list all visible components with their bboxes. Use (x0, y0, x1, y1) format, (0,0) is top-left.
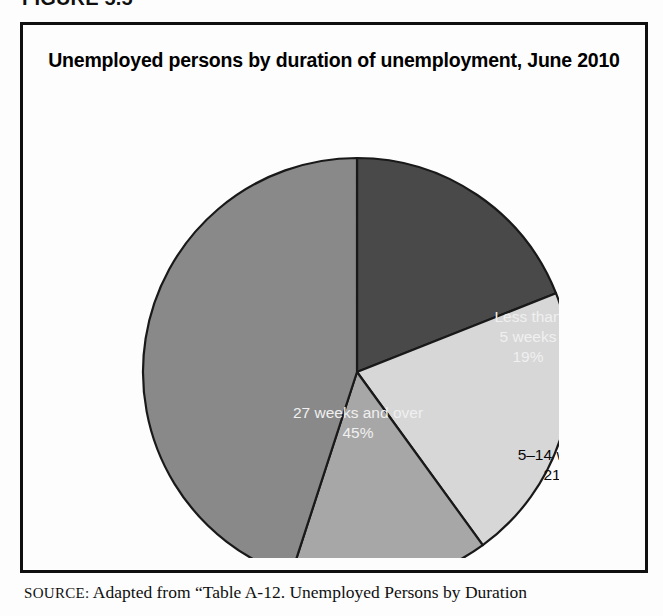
pie-chart-svg: Less than5 weeks19%5–14 weeks21%15–26 we… (123, 106, 559, 558)
chart-title: Unemployed persons by duration of unempl… (23, 49, 645, 72)
pie-slice-label-2: 5–14 weeks (518, 446, 559, 463)
pie-chart: Less than5 weeks19%5–14 weeks21%15–26 we… (123, 106, 559, 558)
source-label: SOURCE: (24, 585, 89, 601)
pie-slice-label-4: 27 weeks and over (293, 404, 423, 421)
pie-slice-label-4: 45% (342, 424, 373, 441)
source-text: Adapted from “Table A-12. Unemployed Per… (89, 582, 527, 602)
pie-slice-label-2: 21% (543, 466, 559, 483)
pie-slice-label-1: 19% (512, 348, 543, 365)
source-note: SOURCE: Adapted from “Table A-12. Unempl… (24, 582, 644, 602)
figure-number: FIGURE 5.5 (22, 0, 133, 10)
pie-slice-group (143, 158, 559, 558)
pie-slice-label-1: Less than (494, 308, 559, 325)
figure-frame: Unemployed persons by duration of unempl… (20, 22, 648, 573)
pie-slice-label-1: 5 weeks (500, 328, 557, 345)
